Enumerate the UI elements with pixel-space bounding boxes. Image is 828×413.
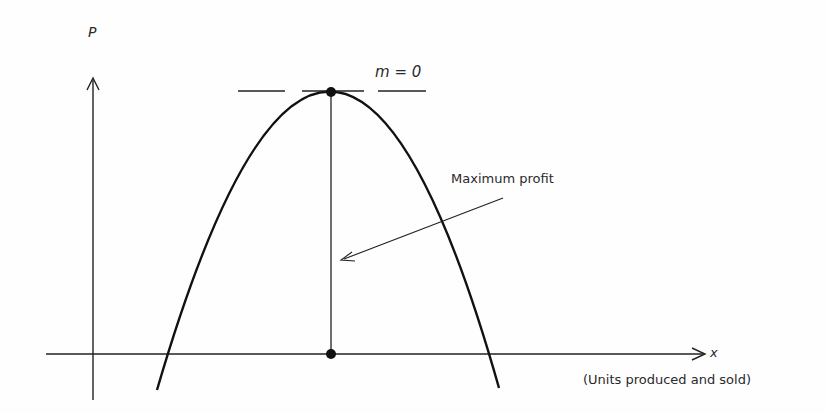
diagram-canvas: P m = 0 Maximum profit x (Units produced… (0, 0, 828, 413)
x-axis-max-point (326, 349, 336, 359)
maximum-profit-label: Maximum profit (451, 171, 554, 186)
profit-curve-graphic (0, 0, 828, 413)
annotation-arrow (344, 198, 503, 259)
x-axis-caption: (Units produced and sold) (583, 372, 751, 387)
slope-label: m = 0 (375, 63, 421, 81)
y-axis-label: P (88, 24, 96, 40)
x-axis-label: x (710, 345, 718, 360)
profit-parabola (157, 91, 499, 390)
annotation-arrowhead-icon (341, 252, 355, 261)
vertex-point (326, 87, 336, 97)
